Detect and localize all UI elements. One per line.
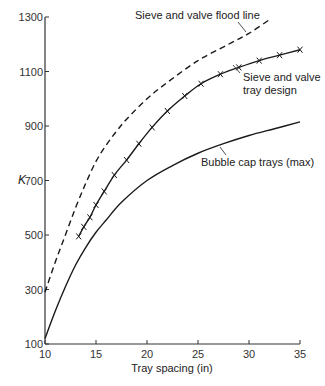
axes: 10030050070090011001300101520253035 [19, 11, 307, 360]
x-marker [102, 188, 107, 194]
bubble-cap-pointer [220, 147, 226, 155]
x-marker [199, 81, 204, 87]
series-bubble-cap-trays-max [45, 122, 300, 339]
chart: 10030050070090011001300101520253035 Siev… [0, 0, 325, 386]
y-axis-label: K [18, 173, 27, 187]
tray-design-label-line1: Sieve and valve [243, 71, 321, 83]
annotations: Sieve and valve flood line Sieve and val… [18, 9, 321, 374]
x-marker [112, 172, 117, 178]
y-tick-label: 1300 [19, 11, 43, 23]
x-tick-label: 25 [192, 348, 204, 360]
x-marker [165, 108, 170, 114]
bubble-cap-label: Bubble cap trays (max) [201, 156, 314, 168]
flood-line-pointer [238, 22, 246, 32]
y-tick-label: 900 [25, 120, 43, 132]
x-tick-label: 20 [141, 348, 153, 360]
x-tick-label: 30 [243, 348, 255, 360]
x-tick-label: 35 [294, 348, 306, 360]
x-tick-label: 10 [39, 348, 51, 360]
x-marker [124, 157, 129, 163]
x-marker [182, 93, 187, 99]
series-layer [45, 20, 303, 339]
x-tick-label: 15 [90, 348, 102, 360]
flood-line-label: Sieve and valve flood line [135, 9, 260, 21]
x-marker [136, 141, 141, 147]
x-marker [81, 224, 86, 230]
x-marker [76, 233, 81, 239]
y-tick-label: 1100 [19, 66, 43, 78]
y-tick-label: 300 [25, 284, 43, 296]
x-marker [94, 202, 99, 208]
x-marker [87, 214, 92, 220]
y-tick-label: 700 [25, 175, 43, 187]
tray-design-label-line2: tray design [243, 84, 297, 96]
y-tick-label: 500 [25, 229, 43, 241]
x-marker [150, 124, 155, 130]
x-axis-label: Tray spacing (in) [131, 362, 213, 374]
